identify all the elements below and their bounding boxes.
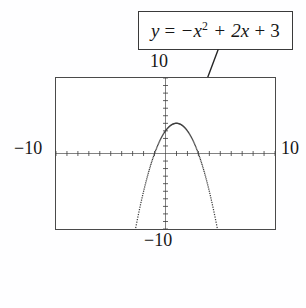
axis-ticks <box>56 78 275 229</box>
figure-canvas: y = −x2 + 2x + 3 10 −10 −10 10 <box>0 0 306 308</box>
equation-term-1: −x <box>180 20 202 41</box>
equation-equals: = <box>165 20 176 41</box>
equation-lhs: y <box>151 20 160 41</box>
parabola-curve <box>135 123 218 228</box>
equation-callout-box: y = −x2 + 2x + 3 <box>138 11 293 50</box>
equation-term-3: + 3 <box>254 20 280 41</box>
equation-text: y = −x2 + 2x + 3 <box>139 20 292 42</box>
window-label-ymin: −10 <box>144 230 172 251</box>
plot-area <box>56 78 275 229</box>
window-label-ymax: 10 <box>150 51 168 72</box>
equation-term-2: + 2x <box>213 20 249 41</box>
window-label-xmin: −10 <box>14 138 42 159</box>
calculator-screen <box>55 77 276 230</box>
window-label-xmax: 10 <box>281 138 299 159</box>
